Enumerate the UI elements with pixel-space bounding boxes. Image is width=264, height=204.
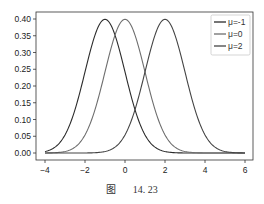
chart: 0.000.050.100.150.200.250.300.350.40 −4−… (0, 0, 264, 180)
legend-label: μ=0 (228, 29, 243, 39)
x-tick-label: 0 (123, 165, 128, 175)
y-axis: 0.000.050.100.150.200.250.300.350.40 (14, 14, 36, 158)
figure-caption: 图 14. 23 (0, 181, 264, 196)
y-tick-label: 0.25 (14, 64, 31, 74)
x-tick-label: 6 (243, 165, 248, 175)
legend: μ=-1μ=0μ=2 (211, 15, 250, 55)
y-tick-label: 0.05 (14, 131, 31, 141)
y-tick-label: 0.30 (14, 48, 31, 58)
x-tick-label: −4 (40, 165, 50, 175)
x-tick-label: 2 (163, 165, 168, 175)
y-tick-label: 0.15 (14, 98, 31, 108)
y-tick-label: 0.00 (14, 148, 31, 158)
x-tick-label: 4 (203, 165, 208, 175)
y-tick-label: 0.20 (14, 81, 31, 91)
y-tick-label: 0.10 (14, 115, 31, 125)
legend-label: μ=-1 (228, 17, 246, 27)
figure-number: 14. 23 (133, 184, 158, 195)
x-tick-label: −2 (80, 165, 90, 175)
legend-label: μ=2 (228, 41, 243, 51)
y-tick-label: 0.35 (14, 31, 31, 41)
figure-label: 图 (106, 181, 116, 196)
x-axis: −4−20246 (40, 160, 247, 175)
y-tick-label: 0.40 (14, 14, 31, 24)
